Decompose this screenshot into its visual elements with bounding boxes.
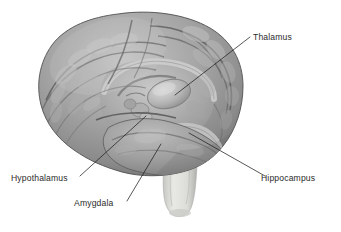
label-hippocampus: Hippocampus: [261, 173, 315, 183]
label-thalamus: Thalamus: [253, 32, 292, 42]
label-hypothalamus: Hypothalamus: [11, 173, 68, 183]
label-amygdala: Amygdala: [74, 198, 113, 208]
cerebrum: [39, 3, 244, 180]
brain-illustration: Thalamus Hippocampus Hypothalamus Amygda…: [0, 0, 341, 232]
brain-anatomy-figure: Thalamus Hippocampus Hypothalamus Amygda…: [0, 0, 341, 232]
